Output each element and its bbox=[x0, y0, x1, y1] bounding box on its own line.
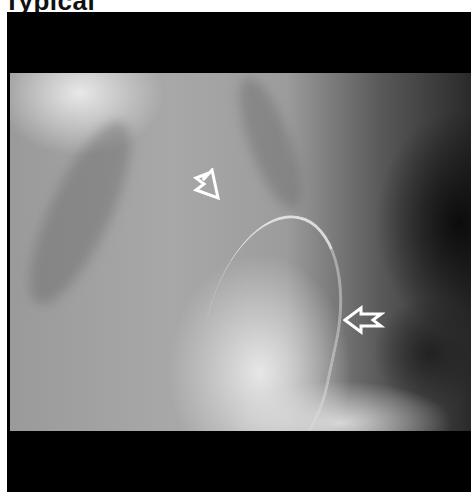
radiograph-frame bbox=[7, 12, 471, 492]
radiograph-image bbox=[10, 73, 471, 431]
rib-shadow bbox=[227, 73, 312, 216]
cardiac-calcification-rim bbox=[181, 202, 362, 431]
rib-shadow bbox=[11, 110, 150, 317]
open-arrow-icon bbox=[343, 305, 385, 335]
open-arrow-icon bbox=[190, 168, 230, 208]
